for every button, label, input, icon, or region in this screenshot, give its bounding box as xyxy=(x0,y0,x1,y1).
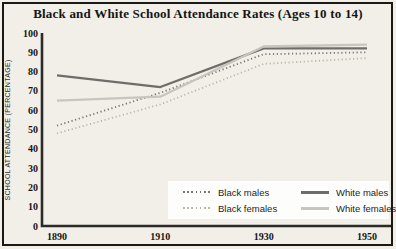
y-tick-label: 90 xyxy=(28,47,38,58)
y-tick-label: 10 xyxy=(28,201,38,212)
y-axis-title: SCHOOL ATTENDANCE (PERCENTAGE) xyxy=(4,59,12,200)
x-tick-label: 1950 xyxy=(357,231,377,242)
legend-label-white-males: White males xyxy=(336,187,388,198)
legend-label-white-females: White females xyxy=(336,203,396,214)
x-tick-label: 1910 xyxy=(150,231,170,242)
white-females-solid-line-swatch xyxy=(301,207,329,210)
y-tick-label: 100 xyxy=(23,28,38,39)
black-males-dotted-line-swatch xyxy=(183,191,211,193)
y-tick-label: 60 xyxy=(28,105,38,116)
series-line-black-females xyxy=(57,58,367,133)
y-tick-label: 30 xyxy=(28,163,38,174)
series-line-white-males xyxy=(57,48,367,87)
series-line-black-males xyxy=(57,52,367,125)
y-tick-label: 20 xyxy=(28,182,38,193)
y-tick-label: 50 xyxy=(28,124,38,135)
x-tick-label: 1930 xyxy=(254,231,274,242)
series-line-white-females xyxy=(57,45,367,101)
x-tick-label: 1890 xyxy=(47,231,67,242)
black-females-dotted-line-swatch xyxy=(183,207,211,209)
y-tick-label: 70 xyxy=(28,85,38,96)
y-tick-label: 80 xyxy=(28,66,38,77)
y-tick-label: 0 xyxy=(33,221,38,232)
y-tick-label: 40 xyxy=(28,143,38,154)
white-males-solid-line-swatch xyxy=(301,191,329,194)
legend-label-black-males: Black males xyxy=(218,187,269,198)
legend-label-black-females: Black females xyxy=(218,203,277,214)
legend-box: Black males White males Black females Wh… xyxy=(168,181,389,219)
legend-item-black-females: Black females xyxy=(183,203,301,214)
chart-figure: Black and White School Attendance Rates … xyxy=(0,0,396,249)
legend-item-white-males: White males xyxy=(301,187,396,198)
legend-item-white-females: White females xyxy=(301,203,396,214)
legend-item-black-males: Black males xyxy=(183,187,301,198)
